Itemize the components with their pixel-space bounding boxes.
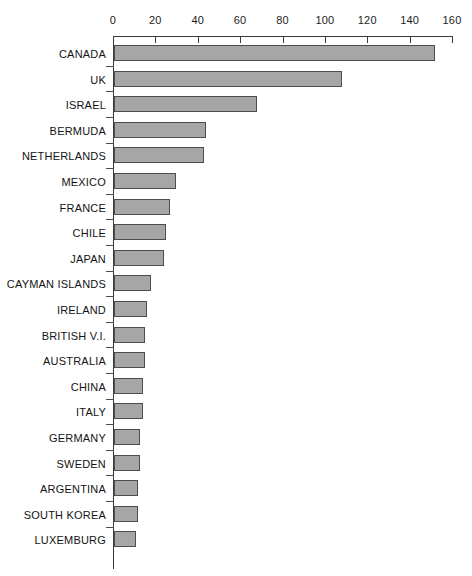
y-axis-minor-tick (106, 143, 114, 144)
x-axis-tick (198, 36, 199, 43)
category-label: UK (0, 74, 106, 86)
category-label: ISRAEL (0, 99, 106, 111)
x-axis-tick-label: 40 (191, 14, 204, 26)
category-label: JAPAN (0, 253, 106, 265)
x-axis-tick-label: 100 (315, 14, 334, 26)
y-axis-minor-tick (106, 66, 114, 67)
bar (114, 173, 176, 189)
bar (114, 147, 204, 163)
y-axis-minor-tick (106, 91, 114, 92)
y-axis-minor-tick (106, 347, 114, 348)
y-axis-minor-tick (106, 117, 114, 118)
y-axis-minor-tick (106, 527, 114, 528)
x-axis-tick (452, 36, 453, 43)
y-axis-minor-tick (106, 245, 114, 246)
x-axis-tick (155, 36, 156, 43)
x-axis-tick (283, 36, 284, 43)
x-axis-tick (325, 36, 326, 43)
category-label: CAYMAN ISLANDS (0, 278, 106, 290)
bar (114, 506, 138, 522)
y-axis-minor-tick (106, 322, 114, 323)
category-label: MEXICO (0, 176, 106, 188)
category-label: CHILE (0, 227, 106, 239)
x-axis-tick-label: 140 (400, 14, 419, 26)
y-axis-minor-tick (106, 399, 114, 400)
category-label: GERMANY (0, 432, 106, 444)
bar (114, 378, 143, 394)
x-axis-tick-label: 80 (276, 14, 289, 26)
bar (114, 224, 166, 240)
bar (114, 96, 257, 112)
bar (114, 301, 147, 317)
bar (114, 403, 143, 419)
x-axis-tick-label: 20 (149, 14, 162, 26)
x-axis-tick (113, 36, 114, 43)
category-label: AUSTRALIA (0, 355, 106, 367)
category-label: ITALY (0, 406, 106, 418)
x-axis-tick (240, 36, 241, 43)
bar (114, 250, 164, 266)
bar (114, 352, 145, 368)
x-axis-tick (367, 36, 368, 43)
category-label: ARGENTINA (0, 483, 106, 495)
x-axis-tick-label: 160 (443, 14, 462, 26)
bar (114, 199, 170, 215)
y-axis-minor-tick (106, 194, 114, 195)
y-axis-minor-tick (106, 219, 114, 220)
y-axis-minor-tick (106, 475, 114, 476)
x-axis-tick-label: 60 (234, 14, 247, 26)
y-axis-minor-tick (106, 501, 114, 502)
y-axis-minor-tick (106, 373, 114, 374)
category-label: SWEDEN (0, 458, 106, 470)
bar (114, 327, 145, 343)
category-label: NETHERLANDS (0, 150, 106, 162)
y-axis-minor-tick (106, 168, 114, 169)
bar (114, 480, 138, 496)
x-axis-tick-label: 0 (110, 14, 116, 26)
bar (114, 122, 206, 138)
category-label: BERMUDA (0, 125, 106, 137)
category-label: IRELAND (0, 304, 106, 316)
y-axis-minor-tick (106, 271, 114, 272)
category-label: SOUTH KOREA (0, 509, 106, 521)
y-axis-minor-tick (106, 296, 114, 297)
bar-chart: 020406080100120140160 CANADAUKISRAELBERM… (0, 0, 472, 576)
x-axis-tick-label: 120 (358, 14, 377, 26)
bar (114, 71, 342, 87)
category-label: LUXEMBURG (0, 534, 106, 546)
bar (114, 45, 435, 61)
bar (114, 275, 151, 291)
x-axis-tick (410, 36, 411, 43)
bar (114, 455, 140, 471)
category-label: BRITISH V.I. (0, 330, 106, 342)
category-label: CANADA (0, 48, 106, 60)
bar (114, 531, 136, 547)
y-axis-minor-tick (106, 450, 114, 451)
category-label: CHINA (0, 381, 106, 393)
category-label: FRANCE (0, 202, 106, 214)
bar (114, 429, 140, 445)
y-axis-minor-tick (106, 424, 114, 425)
